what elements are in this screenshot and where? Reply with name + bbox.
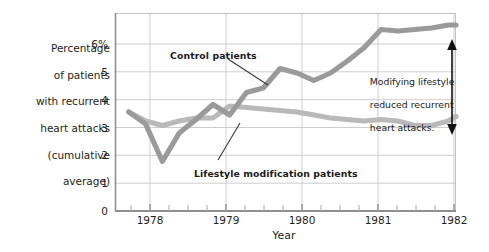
y-tick-label-1: 1 [86, 177, 108, 189]
y-tick-label-5: 5 [86, 66, 108, 78]
series-callout-control-patients: Control patients [170, 50, 257, 61]
gap-annotation-text: Modifying lifestyle reduced recurrent he… [358, 65, 450, 145]
x-tick-label-1979: 1979 [203, 214, 249, 226]
gap-annotation-line-3: heart attacks. [370, 122, 435, 133]
chart-figure: Percentage of patients with recurrent he… [0, 0, 489, 252]
series-callout-lifestyle-modification-patients: Lifestyle modification patients [194, 168, 358, 179]
x-axis-title: Year [254, 229, 314, 242]
y-tick-label-6: 6% [86, 38, 108, 50]
gap-annotation-line-2: reduced recurrent [370, 99, 454, 110]
y-tick-label-4: 4 [86, 94, 108, 106]
gap-annotation-line-1: Modifying lifestyle [370, 76, 455, 87]
x-tick-label-1982: 1982 [431, 214, 477, 226]
x-tick-label-1981: 1981 [355, 214, 401, 226]
y-tick-label-2: 2 [86, 149, 108, 161]
x-tick-label-1978: 1978 [127, 214, 173, 226]
y-axis-title: Percentage of patients with recurrent he… [4, 29, 110, 202]
x-tick-label-1980: 1980 [279, 214, 325, 226]
y-tick-label-3: 3 [86, 122, 108, 134]
y-tick-label-0: 0 [86, 205, 108, 217]
